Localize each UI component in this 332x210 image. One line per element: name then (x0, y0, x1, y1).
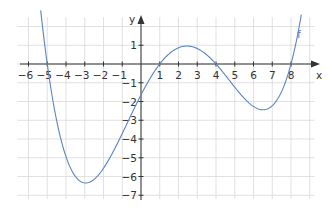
y-axis-arrow-icon (138, 15, 145, 24)
x-tick-label: 5 (231, 69, 238, 81)
x-tick-label: −6 (18, 69, 34, 81)
y-tick-label: −3 (122, 114, 137, 126)
x-axis-arrow-icon (311, 61, 320, 68)
y-tick-label: −6 (122, 171, 138, 183)
y-tick-label: −7 (122, 189, 137, 201)
x-tick-label: 4 (213, 69, 220, 81)
y-tick-label: 1 (130, 39, 137, 51)
function-curve-f (41, 10, 302, 183)
y-tick-label: −4 (122, 133, 138, 145)
y-tick-label: −1 (122, 77, 137, 89)
x-tick-label: 2 (175, 69, 182, 81)
function-plot: −6−5−4−3−2−1123456781−1−2−3−4−5−6−7 x y … (0, 0, 332, 210)
function-label: f (297, 28, 302, 41)
y-axis-label: y (129, 13, 135, 25)
x-axis-label: x (316, 69, 322, 81)
x-tick-label: 3 (194, 69, 201, 81)
y-tick-label: −2 (122, 96, 137, 108)
x-tick-label: 7 (269, 69, 276, 81)
axes (20, 15, 320, 200)
x-tick-label: −2 (93, 69, 108, 81)
x-tick-label: 6 (250, 69, 257, 81)
x-tick-label: −3 (74, 69, 89, 81)
x-tick-label: 1 (156, 69, 163, 81)
y-tick-label: −5 (122, 152, 137, 164)
x-tick-label: −4 (55, 69, 71, 81)
